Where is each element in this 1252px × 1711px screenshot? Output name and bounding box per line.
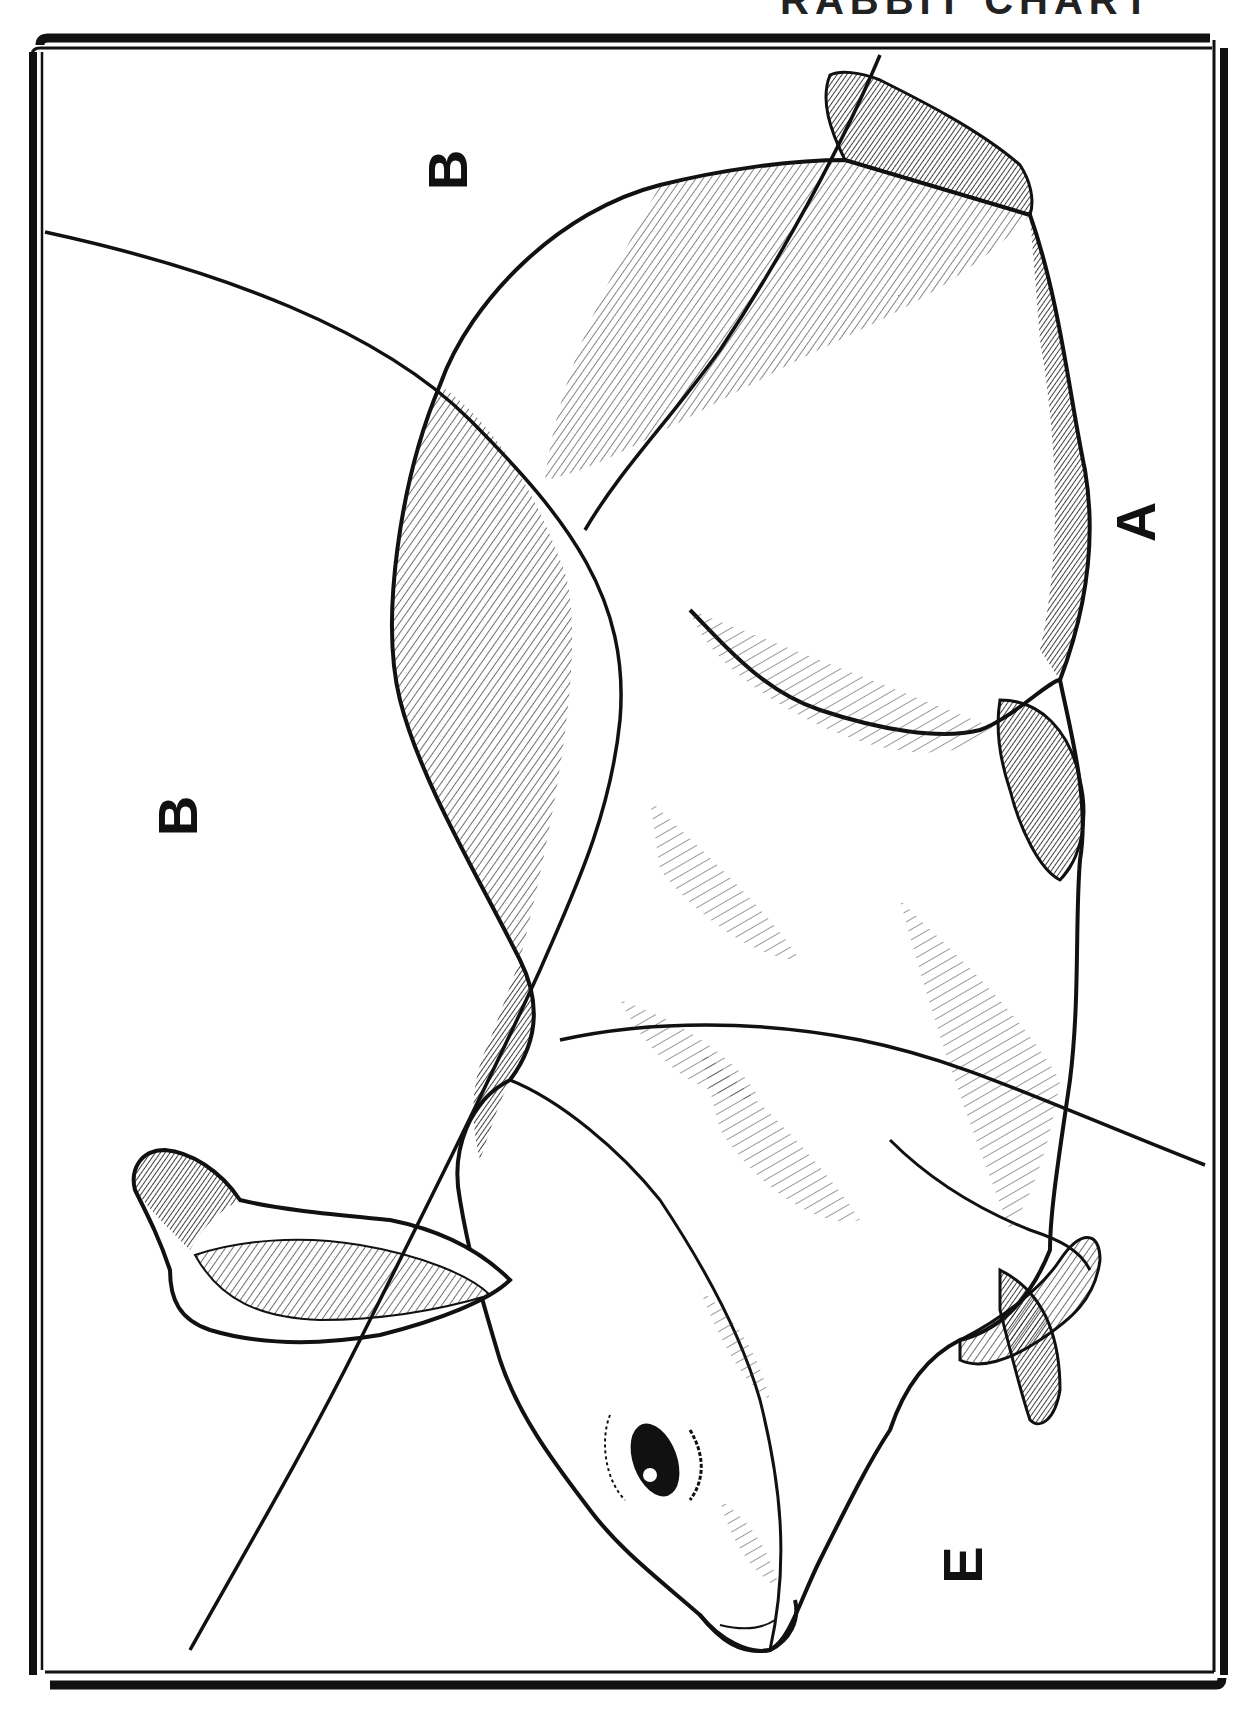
rabbit-ear	[134, 1150, 510, 1342]
rabbit-illustration	[0, 0, 1252, 1711]
region-label-b-top: B	[420, 140, 480, 200]
region-label-b-middle: B	[150, 786, 210, 846]
region-label-a: A	[1108, 492, 1168, 552]
region-label-e: E	[935, 1535, 995, 1595]
